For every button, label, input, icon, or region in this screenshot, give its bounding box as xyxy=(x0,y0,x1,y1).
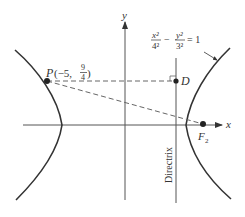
point-d xyxy=(173,78,178,83)
point-p-name: P xyxy=(45,66,54,80)
equation-y-denominator: 3² xyxy=(176,41,184,51)
point-d-label: D xyxy=(180,74,190,88)
equation-rhs: = 1 xyxy=(187,34,200,45)
point-f2-subscript: 2 xyxy=(205,137,209,145)
y-axis-label: y xyxy=(121,9,127,21)
directrix-label: Directrix xyxy=(163,147,174,183)
point-p-coords-suffix: ) xyxy=(87,67,91,80)
point-f2-label: F xyxy=(197,130,205,142)
hyperbola-diagram: y x P (−5, 9 4 ) D F 2 x² 4² − y² 3² = 1… xyxy=(0,0,245,217)
point-p-frac-den: 4 xyxy=(81,73,85,82)
equation-pointer-arrow xyxy=(204,52,217,60)
equation-y-numerator: y² xyxy=(175,30,183,40)
equation-minus: − xyxy=(164,34,170,45)
right-hyperbola-branch xyxy=(186,48,231,199)
equation-x-numerator: x² xyxy=(151,30,159,40)
point-p-frac-num: 9 xyxy=(81,63,85,72)
point-f2 xyxy=(200,121,206,127)
point-p-coords-prefix: (−5, xyxy=(54,67,72,80)
equation-x-denominator: 4² xyxy=(152,41,160,51)
x-axis-label: x xyxy=(225,118,231,130)
